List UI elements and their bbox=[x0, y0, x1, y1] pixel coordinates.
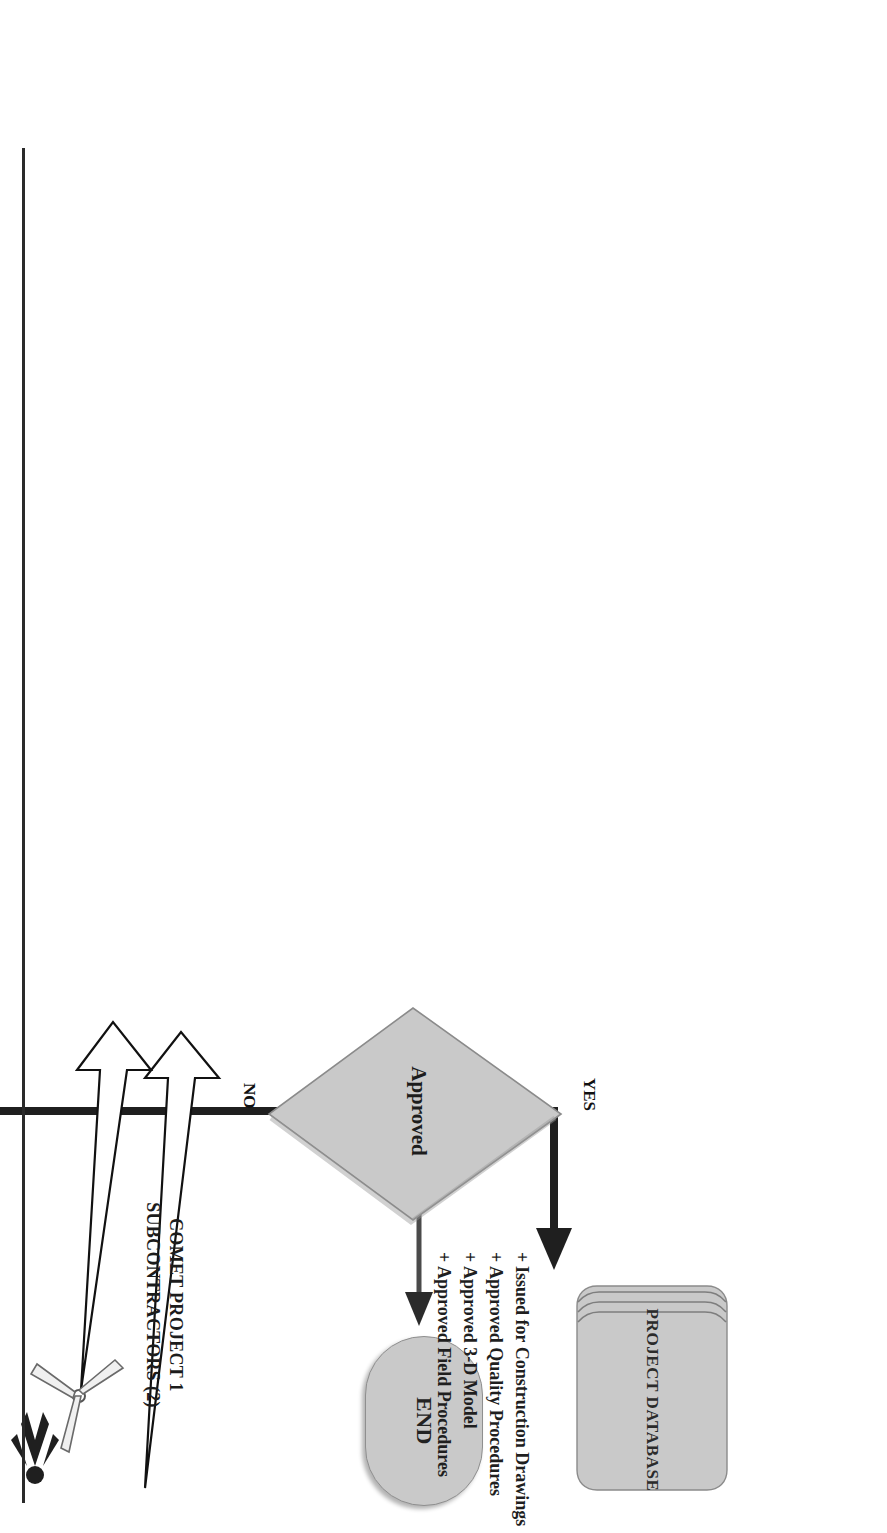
worker-figure-icon bbox=[5, 1400, 65, 1488]
db-content-item: +Approved 3-D Model bbox=[457, 1252, 483, 1526]
subcontractors-caption: COMET PROJECT 1 SUBCONTRACTORS (2) bbox=[140, 1170, 187, 1440]
db-content-item: +Approved Quality Procedures bbox=[483, 1252, 509, 1526]
db-content-item: +Approved Field Procedures bbox=[431, 1252, 457, 1526]
node-decision-approved[interactable]: Approved bbox=[269, 1000, 569, 1222]
edge-label-yes: YES bbox=[579, 1078, 599, 1111]
db-content-label: Issued for Construction Drawings bbox=[512, 1266, 532, 1526]
db-content-label: Approved Quality Procedures bbox=[486, 1266, 506, 1496]
subcontractors-line1: COMET PROJECT 1 bbox=[164, 1170, 187, 1440]
plus-icon: + bbox=[483, 1252, 509, 1266]
db-content-item: +Issued for Construction Drawings bbox=[509, 1252, 535, 1526]
db-content-label: Approved 3-D Model bbox=[460, 1266, 480, 1429]
page-border-rule bbox=[22, 148, 25, 1503]
node-project-database[interactable]: PROJECT DATABASE bbox=[567, 1272, 737, 1504]
plus-icon: + bbox=[509, 1252, 535, 1266]
database-contents-list: +Issued for Construction Drawings +Appro… bbox=[431, 1252, 535, 1526]
flowchart-canvas: Start Project Contract Deliverables Engi… bbox=[0, 0, 887, 1533]
plus-icon: + bbox=[457, 1252, 483, 1266]
plus-icon: + bbox=[431, 1252, 457, 1266]
subcontractors-line2: SUBCONTRACTORS (2) bbox=[140, 1170, 163, 1440]
db-content-label: Approved Field Procedures bbox=[434, 1266, 454, 1477]
edge-label-no: NO bbox=[239, 1083, 259, 1109]
